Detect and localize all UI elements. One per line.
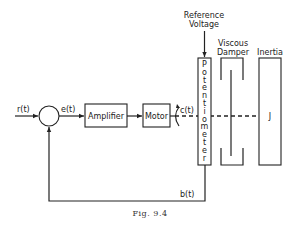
damper-bottom-bracket bbox=[221, 148, 243, 165]
viscous-damper-label-2: Damper bbox=[217, 48, 250, 57]
feedback-signal-label: b(t) bbox=[180, 190, 194, 199]
viscous-damper-label-1: Viscous bbox=[218, 39, 248, 48]
summing-junction bbox=[39, 106, 59, 126]
reference-voltage-label-2: Voltage bbox=[189, 20, 219, 29]
reference-voltage-label-1: Reference bbox=[184, 11, 224, 20]
input-signal-label: r(t) bbox=[17, 105, 30, 114]
amplifier-label: Amplifier bbox=[88, 112, 125, 121]
output-signal-label: c(t) bbox=[180, 106, 194, 115]
motor-label: Motor bbox=[145, 112, 169, 121]
figure-caption: Fig. 9.4 bbox=[132, 209, 167, 218]
damper-top-bracket bbox=[221, 58, 243, 80]
inertia-label: Inertia bbox=[257, 48, 283, 57]
control-system-diagram: r(t) e(t) Amplifier Motor c(t) Reference… bbox=[0, 0, 293, 225]
error-signal-label: e(t) bbox=[61, 105, 75, 114]
inertia-symbol: J bbox=[268, 112, 271, 121]
